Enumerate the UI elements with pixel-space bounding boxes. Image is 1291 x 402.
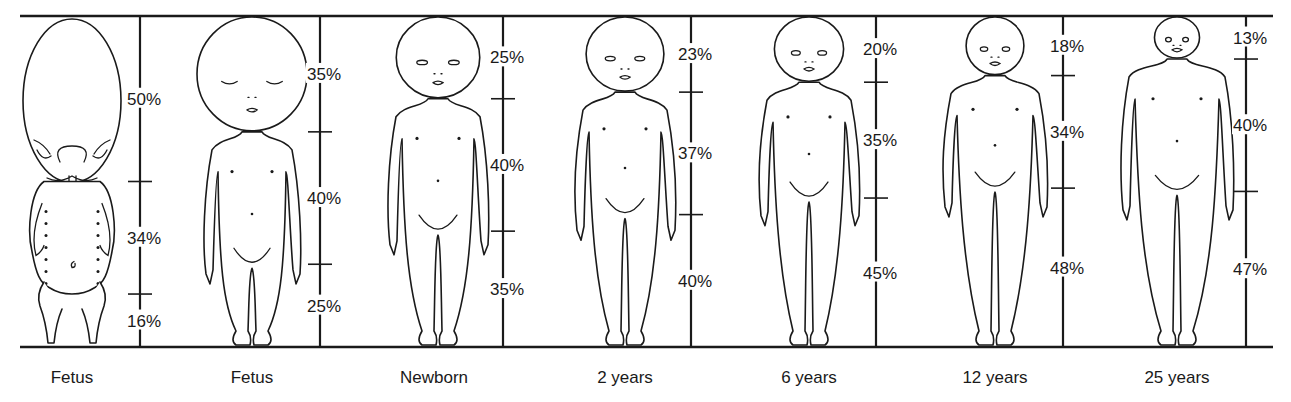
stage-label: 6 years <box>781 368 837 387</box>
trunk-outline <box>30 182 115 295</box>
segment-percent-head: 18% <box>1050 37 1084 56</box>
body-outline <box>1121 59 1234 345</box>
dot <box>45 270 48 273</box>
head-outline <box>586 17 664 91</box>
head-outline <box>396 17 479 98</box>
stage-label: 12 years <box>962 368 1027 387</box>
stage-5: 20%35%45%6 years <box>759 16 906 387</box>
segment-percent-trunk: 34% <box>127 229 161 248</box>
stage-label: Fetus <box>231 368 274 387</box>
head-outline <box>197 17 307 131</box>
segment-percent-head: 35% <box>307 65 341 84</box>
body-outline <box>943 76 1048 345</box>
segment-percent-trunk: 34% <box>1050 123 1084 142</box>
stage-label: 2 years <box>597 368 653 387</box>
dot <box>45 222 48 225</box>
stage-label: 25 years <box>1144 368 1209 387</box>
segment-percent-head: 50% <box>127 90 161 109</box>
dot <box>97 246 100 249</box>
stage-4: 23%37%40%2 years <box>575 16 721 387</box>
dot <box>45 246 48 249</box>
dot <box>45 258 48 261</box>
dot <box>97 210 100 213</box>
nipple <box>1015 108 1018 111</box>
segment-percent-legs: 35% <box>490 280 524 299</box>
segment-percent-legs: 16% <box>127 312 161 331</box>
segment-percent-head: 25% <box>490 48 524 67</box>
segment-percent-legs: 25% <box>307 297 341 316</box>
navel <box>808 153 811 156</box>
segment-percent-trunk: 40% <box>1233 116 1267 135</box>
nipple <box>1199 97 1202 100</box>
body-outline <box>388 99 489 345</box>
body-outline <box>759 82 860 345</box>
nipple <box>415 137 418 140</box>
nipple <box>1151 97 1154 100</box>
segment-percent-trunk: 40% <box>307 189 341 208</box>
nipple <box>786 115 789 118</box>
segment-percent-head: 23% <box>678 45 712 64</box>
nipple <box>602 127 605 130</box>
body-outline <box>575 92 676 345</box>
body-outline <box>204 132 301 345</box>
navel <box>994 144 997 147</box>
navel <box>251 213 254 216</box>
segment-percent-legs: 40% <box>678 272 712 291</box>
dot <box>45 234 48 237</box>
dot <box>97 270 100 273</box>
stage-6: 18%34%48%12 years <box>943 16 1093 387</box>
segment-percent-trunk: 35% <box>863 131 897 150</box>
stage-label: Newborn <box>400 368 468 387</box>
nipple <box>644 127 647 130</box>
segment-percent-head: 20% <box>863 40 897 59</box>
nipple <box>828 115 831 118</box>
stage-7: 13%40%47%25 years <box>1121 16 1276 387</box>
navel <box>624 167 627 170</box>
stages-layer: 50%34%16%Fetus35%40%25%Fetus25%40%35%New… <box>23 16 1276 387</box>
navel <box>1176 140 1179 143</box>
dot <box>97 234 100 237</box>
segment-percent-trunk: 37% <box>678 144 712 163</box>
segment-percent-legs: 48% <box>1050 259 1084 278</box>
stage-3: 25%40%35%Newborn <box>388 16 533 387</box>
segment-percent-trunk: 40% <box>490 156 524 175</box>
segment-percent-head: 13% <box>1233 29 1267 48</box>
stage-1: 50%34%16%Fetus <box>23 16 170 387</box>
navel <box>437 180 440 183</box>
segment-percent-legs: 45% <box>863 264 897 283</box>
stage-label: Fetus <box>51 368 94 387</box>
nipple <box>457 137 460 140</box>
nipple <box>270 170 273 173</box>
stage-2: 35%40%25%Fetus <box>197 16 350 387</box>
dot <box>97 222 100 225</box>
dot <box>45 210 48 213</box>
head-outline <box>23 19 121 183</box>
nipple <box>230 170 233 173</box>
segment-percent-legs: 47% <box>1233 260 1267 279</box>
dot <box>97 258 100 261</box>
nipple <box>971 108 974 111</box>
body-proportions-diagram: 50%34%16%Fetus35%40%25%Fetus25%40%35%New… <box>0 0 1291 402</box>
